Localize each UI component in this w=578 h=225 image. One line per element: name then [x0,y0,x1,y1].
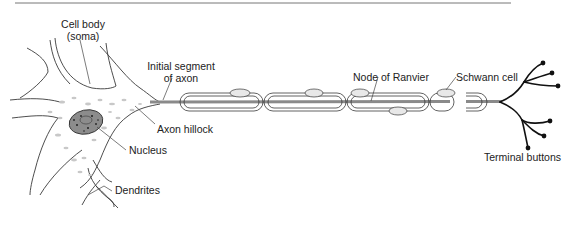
label-dendrites: Dendrites [115,184,160,196]
label-terminal-buttons: Terminal buttons [484,151,561,163]
label-cell-body-line1: Cell body [50,18,116,30]
label-initial-segment-line2: of axon [143,72,219,84]
label-cell-body: Cell body (soma) [50,18,116,42]
terminal-button-knobs [526,61,561,151]
label-node-of-ranvier: Node of Ranvier [353,71,429,83]
label-initial-segment: Initial segment of axon [143,60,219,84]
neuron-diagram: Cell body (soma) Initial segment of axon… [0,0,578,225]
label-schwann-cell: Schwann cell [456,71,518,83]
nucleus-shape [67,107,105,138]
label-initial-segment-line1: Initial segment [143,60,219,72]
label-nucleus: Nucleus [129,144,167,156]
leader-lines [80,40,456,195]
label-cell-body-line2: (soma) [50,30,116,42]
axon [150,102,502,103]
cytoplasm-granules [48,97,143,176]
label-axon-hillock: Axon hillock [157,123,213,135]
